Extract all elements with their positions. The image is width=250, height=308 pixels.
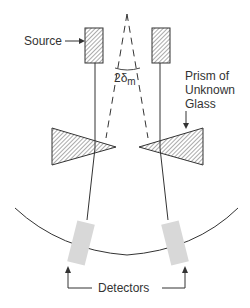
prism-arrow-icon xyxy=(183,111,189,129)
right-prism xyxy=(139,128,203,165)
prism-label-line3: Glass xyxy=(185,97,216,111)
detectors-label: Detectors xyxy=(98,281,149,295)
source-arrow-icon xyxy=(65,38,85,44)
angle-label: 2δm xyxy=(114,71,136,87)
prism-label-line2: Unknown xyxy=(185,83,235,97)
prism-deviation-diagram: Source 2δm Prism of Unknown Glass Detect… xyxy=(0,0,250,308)
right-detector xyxy=(161,220,189,265)
left-source xyxy=(85,28,103,63)
prism-label-line1: Prism of xyxy=(185,69,230,83)
source-label: Source xyxy=(24,34,62,48)
right-source xyxy=(152,28,170,63)
detector-arc xyxy=(15,208,238,255)
